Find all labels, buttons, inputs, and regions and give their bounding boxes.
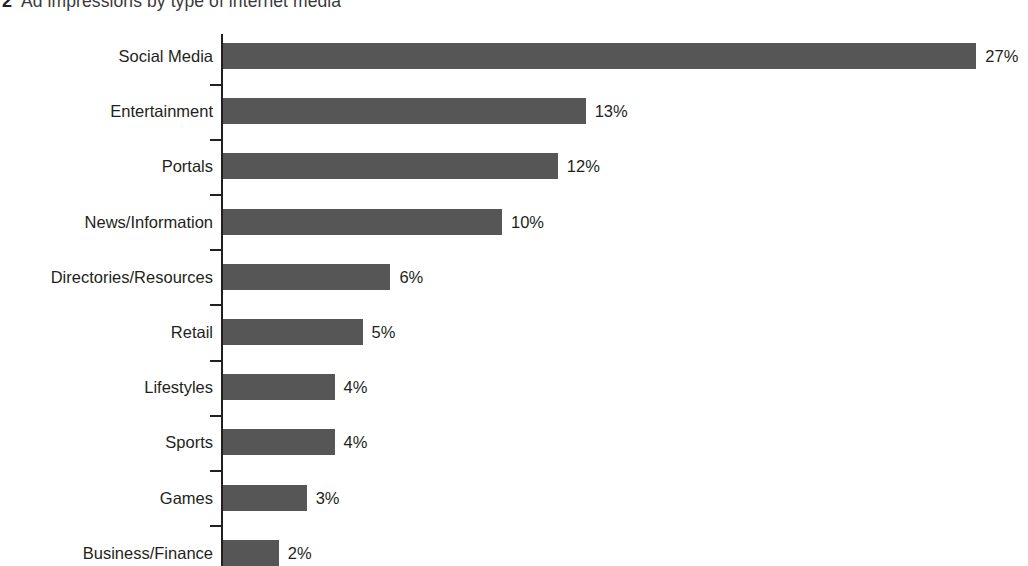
- category-label: Portals: [162, 157, 222, 176]
- bar-row: Directories/Resources6%: [0, 251, 1028, 303]
- category-label: News/Information: [85, 212, 222, 231]
- bar-value-label: 5%: [363, 323, 396, 342]
- bar-row: Games3%: [0, 472, 1028, 524]
- bar: [223, 153, 558, 179]
- category-label: Retail: [171, 323, 222, 342]
- bar-row: Lifestyles4%: [0, 361, 1028, 413]
- bar-row: Social Media27%: [0, 30, 1028, 82]
- bar-row: Retail5%: [0, 306, 1028, 358]
- axis-tick: [210, 470, 221, 472]
- bar-value-label: 13%: [586, 102, 628, 121]
- bar: [223, 319, 363, 345]
- axis-tick: [210, 415, 221, 417]
- category-label: Entertainment: [110, 102, 222, 121]
- axis-tick: [210, 249, 221, 251]
- category-label: Lifestyles: [144, 378, 222, 397]
- bar: [223, 264, 390, 290]
- bar-row: News/Information10%: [0, 196, 1028, 248]
- chart-page: 2 Ad impressions by type of internet med…: [0, 0, 1028, 566]
- bar: [223, 43, 976, 69]
- bar: [223, 540, 279, 566]
- bar-value-label: 12%: [558, 157, 600, 176]
- bar: [223, 429, 335, 455]
- bar-value-label: 3%: [307, 488, 340, 507]
- bar: [223, 98, 586, 124]
- bar-chart-plot: Social Media27%Entertainment13%Portals12…: [0, 0, 1028, 566]
- axis-tick: [210, 194, 221, 196]
- axis-tick: [210, 84, 221, 86]
- bar-row: Sports4%: [0, 416, 1028, 468]
- bar-value-label: 2%: [279, 543, 312, 562]
- axis-tick: [210, 525, 221, 527]
- bar-value-label: 4%: [335, 378, 368, 397]
- axis-tick: [210, 304, 221, 306]
- bar-value-label: 27%: [976, 47, 1018, 66]
- bar-value-label: 4%: [335, 433, 368, 452]
- category-label: Business/Finance: [83, 543, 222, 562]
- axis-tick: [210, 139, 221, 141]
- bar-value-label: 6%: [390, 267, 423, 286]
- bar-row: Business/Finance2%: [0, 527, 1028, 566]
- bar: [223, 374, 335, 400]
- category-label: Games: [160, 488, 222, 507]
- bar-row: Portals12%: [0, 140, 1028, 192]
- bar-value-label: 10%: [502, 212, 544, 231]
- bar: [223, 209, 502, 235]
- category-label: Directories/Resources: [51, 267, 222, 286]
- axis-tick: [210, 360, 221, 362]
- category-label: Sports: [165, 433, 222, 452]
- bar-row: Entertainment13%: [0, 85, 1028, 137]
- category-label: Social Media: [119, 47, 222, 66]
- bar: [223, 485, 307, 511]
